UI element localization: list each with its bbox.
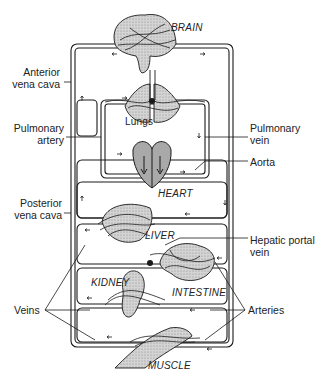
organ-label-heart: HEART [158,188,193,199]
label-aorta: Aorta [250,156,275,168]
organ-label-lungs: Lungs [125,116,153,127]
organ-label-brain: BRAIN [171,22,203,33]
outer-vessel-loop [71,44,233,347]
organ-label-liver: LIVER [145,230,175,241]
organ-label-muscle: MUSCLE [148,360,191,371]
organ-label-kidney: KIDNEY [91,277,129,288]
label-anterior-vena-cava: Anterior vena cava [10,66,60,90]
organ-label-intestine: INTESTINE [172,287,226,298]
brain-icon [114,14,176,73]
label-pulmonary-artery: Pulmonary artery [4,122,64,146]
label-pulmonary-vein: Pulmonary vein [250,122,300,146]
intestine-icon [147,244,215,281]
label-veins: Veins [14,304,40,316]
lungs-icon [105,70,205,122]
heart-icon [133,142,171,188]
label-posterior-vena-cava: Posterior vena cava [4,197,62,221]
label-arteries: Arteries [248,304,284,316]
label-hepatic-portal-vein: Hepatic portal vein [250,234,315,258]
